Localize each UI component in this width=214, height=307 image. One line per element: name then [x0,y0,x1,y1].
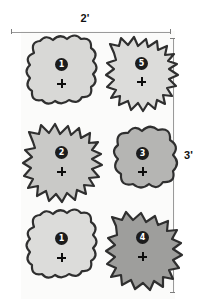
shape-number-badge: 2 [55,146,68,159]
shape-middle-right[interactable]: 3 [104,127,184,207]
dimension-label-width: 2' [0,12,170,24]
plus-marker-icon [138,252,147,261]
shape-number-badge: 4 [136,231,149,244]
dimension-tick-left [11,29,12,34]
shape-number-badge: 5 [135,57,148,70]
shape-top-right[interactable]: 5 [103,35,183,121]
plus-marker-icon [138,167,147,176]
plus-marker-icon [137,77,146,86]
plus-marker-icon [57,79,66,88]
shape-number-badge: 1 [55,58,68,71]
shape-bottom-right[interactable]: 4 [103,209,185,295]
dimension-label-height: 3' [184,149,193,161]
shape-middle-left[interactable]: 2 [21,122,105,210]
shape-number-badge: 1 [55,232,68,245]
plus-marker-icon [57,253,66,262]
dimension-line-bar-horizontal [11,32,171,33]
diagram-canvas: 2' 3' 1 5 2 3 [0,0,214,307]
shape-number-badge: 3 [136,147,149,160]
shape-top-right-outline [106,37,178,111]
shape-top-left[interactable]: 1 [22,37,102,121]
shape-bottom-left[interactable]: 1 [22,211,102,295]
shape-bottom-right-outline [106,212,182,290]
dimension-line-width [11,31,171,34]
dimension-tick-right [170,29,171,34]
plus-marker-icon [57,167,66,176]
shape-middle-left-outline [23,124,102,202]
